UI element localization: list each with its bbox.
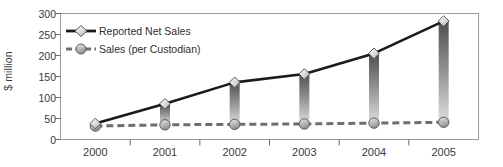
x-tick-label: 2005 (417, 146, 471, 158)
x-tick-label: 2003 (277, 146, 331, 158)
x-axis-tick-labels: 200020012002200320042005 (0, 146, 503, 164)
y-axis-tick-labels: 050100150200250300 (22, 0, 56, 167)
x-tick-label: 2001 (138, 146, 192, 158)
drop-bar (299, 74, 309, 124)
legend-label: Sales (per Custodian) (99, 43, 201, 55)
legend: Reported Net Sales Sales (per Custodian) (99, 22, 299, 58)
data-point-circle (160, 120, 170, 130)
y-tick-label: 300 (22, 8, 56, 19)
legend-item-reported-net-sales: Reported Net Sales (99, 22, 299, 40)
legend-label: Reported Net Sales (99, 25, 191, 37)
drop-bar (439, 21, 449, 122)
y-tick-label: 250 (22, 29, 56, 40)
x-tick-label: 2004 (347, 146, 401, 158)
chart-container: $ million 050100150200250300 20002001200… (0, 0, 503, 167)
legend-item-sales-per-custodian: Sales (per Custodian) (99, 40, 299, 58)
y-tick-label: 50 (22, 113, 56, 124)
data-point-circle (369, 118, 379, 128)
y-tick-label: 150 (22, 71, 56, 82)
legend-glyphs (66, 26, 96, 55)
series-sales-per-custodian-line (95, 122, 443, 126)
y-tick-label: 0 (22, 134, 56, 145)
data-point-circle (229, 119, 239, 129)
y-axis-title: $ million (2, 38, 16, 104)
y-tick-label: 200 (22, 50, 56, 61)
y-tick-label: 100 (22, 92, 56, 103)
data-point-circle (438, 117, 448, 127)
data-point-circle (299, 119, 309, 129)
y-axis-ticks (56, 14, 61, 140)
x-tick-label: 2002 (208, 146, 262, 158)
legend-circle-icon (76, 44, 86, 54)
legend-diamond-icon (75, 26, 87, 37)
drop-bar (369, 53, 379, 123)
drop-bar (230, 82, 240, 124)
x-axis-ticks (130, 140, 409, 146)
x-tick-label: 2000 (68, 146, 122, 158)
